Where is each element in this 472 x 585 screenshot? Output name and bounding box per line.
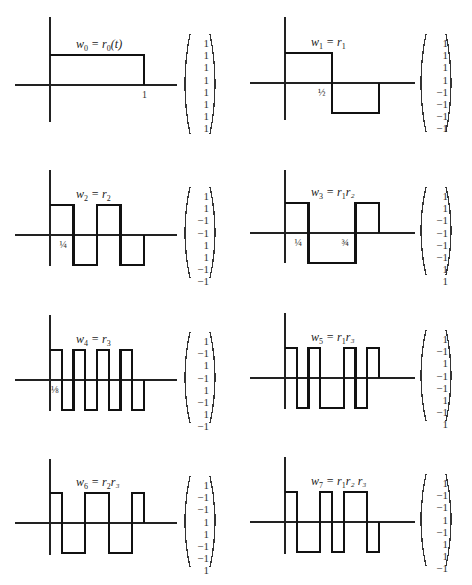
vector-entry: 1	[189, 564, 209, 576]
vector-entry: −1	[189, 227, 209, 239]
vector-entry: 1	[428, 190, 448, 202]
vector-entry: 1	[428, 275, 448, 287]
function-label-w4: w4 = r3	[76, 332, 111, 348]
vector-entry: 1	[189, 516, 209, 528]
vector-entry: 1	[189, 74, 209, 86]
vector-entry: 1	[428, 49, 448, 61]
vector-entry: 1	[189, 86, 209, 98]
vector-entry: −1	[428, 122, 448, 134]
vector-entry: 1	[189, 49, 209, 61]
vector-w7: 1−1−11−111−1	[428, 477, 448, 575]
vector-entry: −1	[189, 396, 209, 408]
vector-right-paren	[210, 476, 215, 567]
vector-entry: −1	[189, 275, 209, 287]
vector-entry: −1	[189, 372, 209, 384]
vector-entry: −1	[428, 251, 448, 263]
vector-left-paren	[421, 34, 426, 132]
panel-w4	[15, 315, 215, 423]
vector-entry: 1	[189, 335, 209, 347]
function-label-w5: w5 = r1r₃	[311, 330, 355, 346]
vector-w0: 11111111	[189, 37, 209, 135]
vector-entry: 1	[189, 251, 209, 263]
vector-left-paren	[421, 474, 426, 566]
vector-entry: 1	[189, 239, 209, 251]
function-label-w3: w3 = r1r₂	[311, 185, 355, 201]
vector-entry: 1	[428, 477, 448, 489]
vector-entry: 1	[189, 384, 209, 396]
tick-label: ¼	[295, 237, 303, 248]
vector-entry: 1	[428, 418, 448, 430]
vector-entry: 1	[428, 394, 448, 406]
vector-right-paren	[210, 34, 215, 134]
vector-entry: −1	[189, 503, 209, 515]
function-label-w7: w7 = r1r₂ r₃	[311, 474, 366, 490]
vector-entry: 1	[189, 37, 209, 49]
waveform-w0	[50, 55, 144, 85]
vector-entry: 1	[189, 190, 209, 202]
vector-entry: −1	[189, 263, 209, 275]
vector-entry: −1	[189, 347, 209, 359]
vector-entry: 1	[428, 514, 448, 526]
panel-w1	[250, 17, 451, 132]
vector-entry: −1	[428, 227, 448, 239]
vector-left-paren	[421, 187, 426, 275]
vector-entry: −1	[428, 345, 448, 357]
vector-entry: 1	[428, 357, 448, 369]
vector-w3: 11−1−1−1−111	[428, 190, 448, 288]
vector-entry: 1	[428, 37, 448, 49]
vector-entry: −1	[189, 552, 209, 564]
vector-entry: 1	[189, 110, 209, 122]
vector-entry: −1	[189, 420, 209, 432]
vector-entry: 1	[428, 202, 448, 214]
vector-w5: 1−11−1−11−11	[428, 333, 448, 431]
vector-entry: 1	[189, 359, 209, 371]
vector-entry: −1	[428, 406, 448, 418]
vector-entry: −1	[189, 491, 209, 503]
tick-label: 1	[142, 89, 147, 100]
vector-entry: 1	[428, 550, 448, 562]
vector-entry: −1	[189, 214, 209, 226]
vector-entry: 1	[189, 98, 209, 110]
vector-left-paren	[421, 330, 426, 421]
tick-label: ½	[318, 87, 326, 98]
vector-entry: −1	[428, 110, 448, 122]
vector-entry: 1	[189, 202, 209, 214]
vector-entry: −1	[428, 501, 448, 513]
function-label-w1: w1 = r1	[311, 35, 346, 51]
vector-entry: −1	[428, 86, 448, 98]
vector-entry: 1	[189, 479, 209, 491]
function-label-w0: w0 = r0(t)	[76, 37, 122, 53]
vector-entry: 1	[428, 74, 448, 86]
vector-entry: 1	[189, 122, 209, 134]
function-label-w2: w2 = r2	[76, 187, 111, 203]
vector-entry: 1	[428, 263, 448, 275]
vector-entry: −1	[428, 526, 448, 538]
panel-w0	[15, 17, 215, 134]
vector-entry: −1	[428, 214, 448, 226]
walsh-function-figure: 11111111w0 = r0(t)11111−1−1−1−1w1 = r1½1…	[0, 0, 472, 585]
vector-entry: 1	[189, 528, 209, 540]
vector-right-paren	[210, 332, 215, 423]
vector-right-paren	[210, 187, 215, 278]
figure-canvas	[0, 0, 472, 585]
vector-w6: 1−1−111−1−11	[189, 479, 209, 577]
vector-entry: −1	[189, 540, 209, 552]
tick-label: ⅛	[51, 384, 59, 395]
vector-w1: 1111−1−1−1−1	[428, 37, 448, 135]
panel-w2	[15, 170, 215, 278]
tick-label-2: ¾	[342, 237, 350, 248]
vector-entry: −1	[428, 489, 448, 501]
vector-entry: −1	[428, 370, 448, 382]
function-label-w6: w6 = r2r₃	[76, 475, 120, 491]
vector-entry: 1	[428, 538, 448, 550]
vector-entry: −1	[428, 239, 448, 251]
vector-entry: −1	[428, 562, 448, 574]
vector-entry: −1	[428, 382, 448, 394]
vector-w4: 1−11−11−11−1	[189, 335, 209, 433]
vector-entry: 1	[428, 61, 448, 73]
tick-label: ¼	[60, 239, 68, 250]
vector-entry: 1	[189, 408, 209, 420]
vector-w2: 11−1−111−1−1	[189, 190, 209, 288]
vector-entry: 1	[428, 333, 448, 345]
vector-entry: 1	[189, 61, 209, 73]
